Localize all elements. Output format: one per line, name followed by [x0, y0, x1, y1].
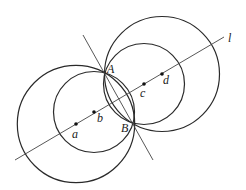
label-A: A: [106, 62, 115, 76]
point-b: [92, 110, 96, 114]
label-b: b: [97, 111, 103, 125]
label-l: l: [228, 31, 232, 45]
geometry-diagram: abcdABl: [0, 0, 246, 190]
label-c: c: [140, 86, 146, 100]
point-a: [74, 122, 78, 126]
line-l: [15, 37, 224, 160]
label-a: a: [72, 127, 78, 141]
labels: abcdABl: [72, 31, 232, 141]
label-B: B: [121, 121, 129, 135]
label-d: d: [163, 73, 170, 87]
